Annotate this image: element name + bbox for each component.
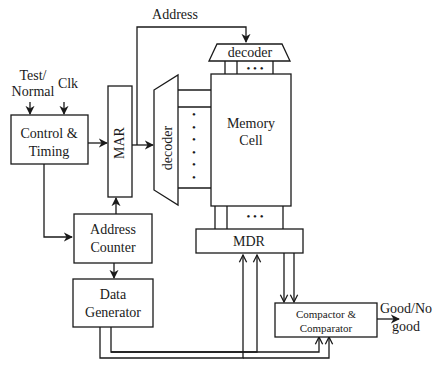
svg-text:Generator: Generator [85,305,141,320]
control-to-counter-arrow [44,164,72,237]
svg-text:Counter: Counter [90,240,135,255]
svg-text:Good/No: Good/No [380,301,432,316]
svg-text:Data: Data [100,287,127,302]
good-no-good-output: Good/No good [380,301,432,334]
generator-to-comparator-bus-1 [111,337,319,352]
svg-text:•: • [192,146,196,158]
column-decoder-block: decoder [209,44,290,61]
memory-cell-block: Memory Cell [211,74,291,206]
svg-text:decoder: decoder [228,45,273,60]
svg-text:• • •: • • • [246,62,263,74]
svg-text:Clk: Clk [58,76,78,91]
mdr-block: MDR [196,229,303,253]
control-timing-block: Control & Timing [11,115,88,164]
svg-text:Compactor &: Compactor & [296,308,357,320]
svg-text:•: • [192,133,196,145]
svg-text:•: • [192,108,196,120]
generator-to-comparator-bus-2 [243,337,329,358]
svg-text:Address: Address [90,222,136,237]
bist-block-diagram: Test/ Normal Clk Control & Timing MAR Ad… [0,0,439,366]
svg-text:•: • [192,171,196,183]
address-counter-block: Address Counter [74,214,152,263]
svg-text:MAR: MAR [112,126,127,159]
svg-text:Memory: Memory [227,116,275,131]
svg-text:Timing: Timing [29,144,70,159]
data-generator-block: Data Generator [73,279,153,327]
svg-text:Comparator: Comparator [300,322,353,334]
svg-text:Cell: Cell [239,133,262,148]
svg-text:MDR: MDR [233,234,266,249]
mar-block: MAR [108,86,132,197]
bit-lines: • • • [215,206,283,229]
svg-text:Test/: Test/ [19,68,46,83]
svg-text:Control &: Control & [20,126,77,141]
compactor-comparator-block: Compactor & Comparator [275,303,377,337]
column-lines: • • • [225,61,273,74]
row-lines: • • • • • • [178,90,211,188]
svg-text:decoder: decoder [160,126,175,171]
clk-signal: Clk [58,76,78,114]
svg-text:• • •: • • • [246,210,263,222]
svg-text:•: • [192,121,196,133]
svg-text:good: good [392,319,420,334]
row-decoder-block: decoder [154,75,178,205]
address-label: Address [152,7,198,22]
svg-text:•: • [192,158,196,170]
test-normal-signal: Test/ Normal [12,68,55,114]
svg-text:Normal: Normal [12,84,55,99]
